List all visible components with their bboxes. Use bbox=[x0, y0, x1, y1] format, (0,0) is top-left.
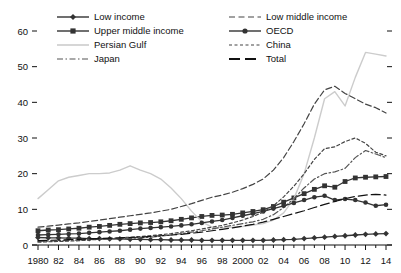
series-marker bbox=[384, 202, 389, 207]
series-marker bbox=[87, 225, 92, 230]
series-marker bbox=[363, 200, 368, 205]
x-tick-label: 2000 bbox=[232, 255, 253, 266]
series-marker bbox=[87, 231, 92, 236]
x-tick-label: 90 bbox=[135, 255, 146, 266]
y-tick-label: 30 bbox=[17, 133, 28, 144]
series-marker bbox=[332, 234, 338, 240]
series-marker bbox=[66, 232, 71, 237]
x-tick-label: 02 bbox=[258, 255, 269, 266]
chart-container: 0102030405060 19808284868890929496982000… bbox=[0, 0, 401, 273]
series-marker bbox=[128, 221, 133, 226]
series-marker bbox=[56, 232, 61, 237]
series-marker bbox=[159, 225, 164, 230]
series-marker bbox=[36, 228, 41, 233]
series-marker bbox=[46, 232, 51, 237]
series-marker bbox=[107, 223, 112, 228]
x-tick-label: 10 bbox=[340, 255, 351, 266]
series-marker bbox=[148, 220, 153, 225]
series-marker bbox=[219, 237, 225, 243]
series-marker bbox=[128, 227, 133, 232]
series-marker bbox=[281, 203, 286, 208]
x-tick-label: 12 bbox=[360, 255, 371, 266]
series-marker bbox=[373, 174, 378, 179]
series-marker bbox=[158, 219, 163, 224]
series-marker bbox=[199, 221, 204, 226]
series-marker bbox=[230, 216, 235, 221]
series-marker bbox=[240, 237, 246, 243]
series-marker bbox=[199, 214, 204, 219]
series-marker bbox=[240, 213, 245, 218]
x-tick-label: 82 bbox=[53, 255, 64, 266]
series-marker bbox=[260, 237, 266, 243]
series-marker bbox=[383, 231, 389, 237]
series-marker bbox=[97, 224, 102, 229]
series-marker bbox=[107, 229, 112, 234]
series-marker bbox=[189, 222, 194, 227]
series-marker bbox=[210, 213, 215, 218]
series-marker bbox=[97, 230, 102, 235]
series-marker bbox=[138, 226, 143, 231]
x-tick-label: 98 bbox=[217, 255, 228, 266]
series-marker bbox=[189, 215, 194, 220]
y-tick-label: 60 bbox=[17, 26, 28, 37]
series-marker bbox=[281, 237, 287, 243]
x-tick-label: 1980 bbox=[27, 255, 48, 266]
series-marker bbox=[352, 232, 358, 238]
series-marker bbox=[209, 237, 215, 243]
series-marker bbox=[301, 236, 307, 242]
series-marker bbox=[292, 201, 297, 206]
x-tick-label: 92 bbox=[156, 255, 167, 266]
series-marker bbox=[168, 237, 174, 243]
series-marker bbox=[311, 235, 317, 241]
series-marker bbox=[322, 183, 327, 188]
series-marker bbox=[118, 228, 123, 233]
line-chart-plot: 0102030405060 19808284868890929496982000… bbox=[0, 0, 401, 273]
series-marker bbox=[373, 231, 379, 237]
series-marker bbox=[117, 222, 122, 227]
series-marker bbox=[322, 193, 327, 198]
series-marker bbox=[332, 185, 337, 190]
series-marker bbox=[312, 187, 317, 192]
series-line bbox=[38, 86, 386, 227]
series-marker bbox=[199, 237, 205, 243]
series-marker bbox=[353, 176, 358, 181]
series-marker bbox=[343, 179, 348, 184]
x-tick-label: 84 bbox=[74, 255, 85, 266]
x-axis: 1980828486889092949698200002040608101214 bbox=[27, 245, 392, 266]
series-marker bbox=[148, 226, 153, 231]
y-tick-label: 20 bbox=[17, 168, 28, 179]
y-tick-label: 10 bbox=[17, 204, 28, 215]
x-tick-label: 08 bbox=[319, 255, 330, 266]
series-marker bbox=[210, 219, 215, 224]
series-marker bbox=[353, 198, 358, 203]
series-marker bbox=[220, 218, 225, 223]
series-marker bbox=[342, 233, 348, 239]
series-marker bbox=[373, 203, 378, 208]
y-tick-label: 40 bbox=[17, 97, 28, 108]
series-marker bbox=[169, 224, 174, 229]
series-marker bbox=[138, 220, 143, 225]
series-marker bbox=[179, 217, 184, 222]
series-marker bbox=[36, 233, 41, 238]
series-marker bbox=[363, 231, 369, 237]
series-marker bbox=[56, 227, 61, 232]
series-marker bbox=[343, 197, 348, 202]
series-marker bbox=[363, 175, 368, 180]
series-marker bbox=[312, 195, 317, 200]
y-tick-label: 50 bbox=[17, 61, 28, 72]
series-marker bbox=[179, 223, 184, 228]
x-tick-label: 04 bbox=[278, 255, 289, 266]
series-marker bbox=[178, 237, 184, 243]
series-marker bbox=[158, 237, 164, 243]
y-tick-label: 0 bbox=[23, 240, 28, 251]
series-marker bbox=[77, 231, 82, 236]
series-marker bbox=[251, 211, 256, 216]
x-tick-label: 88 bbox=[115, 255, 126, 266]
series-marker bbox=[230, 237, 236, 243]
series-marker bbox=[250, 237, 256, 243]
series-marker bbox=[77, 226, 82, 231]
series-marker bbox=[66, 227, 71, 232]
series-marker bbox=[189, 237, 195, 243]
x-tick-label: 94 bbox=[176, 255, 187, 266]
series-marker bbox=[384, 174, 389, 179]
